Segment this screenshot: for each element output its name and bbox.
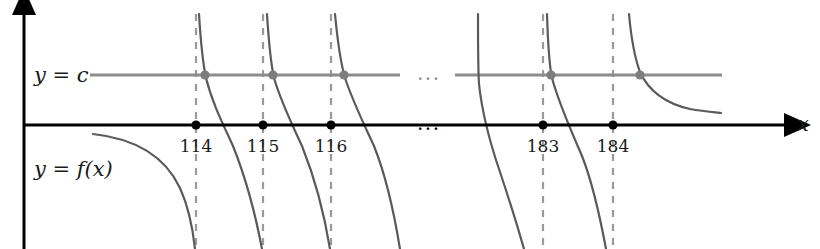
- level-intersection-dot-1: [200, 70, 209, 79]
- tick-label-115: 115: [247, 136, 279, 156]
- curve-branch-114: [199, 14, 262, 249]
- curve-branch-115: [267, 14, 330, 249]
- curve-branch-184-decay: [629, 14, 721, 113]
- axis-dot-114: [191, 120, 200, 129]
- function-graph-figure: 114115116183184 x y = c y = f(x) ... ...: [0, 0, 820, 249]
- curve-branch-183: [547, 14, 606, 249]
- curve-branch-182-partial: [478, 14, 524, 249]
- curve-branch-116: [335, 14, 400, 249]
- ellipsis-level-line: ...: [417, 61, 441, 85]
- level-intersection-dot-2: [268, 70, 277, 79]
- axis-dot-184: [608, 120, 617, 129]
- tick-label-group: 114115116183184: [180, 136, 629, 156]
- level-intersection-dot-5: [635, 70, 644, 79]
- axis-group: [24, 12, 787, 249]
- tick-label-184: 184: [597, 136, 629, 156]
- axis-dot-183: [538, 120, 547, 129]
- tick-label-114: 114: [180, 136, 212, 156]
- x-axis-label: x: [797, 112, 809, 136]
- figure-canvas: 114115116183184 x y = c y = f(x) ... ...: [0, 0, 820, 249]
- function-curve-group: [93, 14, 721, 249]
- axis-dot-116: [326, 120, 335, 129]
- ellipsis-x-axis: ...: [417, 111, 441, 135]
- asymptote-group: [196, 14, 613, 249]
- tick-label-116: 116: [315, 136, 347, 156]
- level-line-label: y = c: [33, 63, 89, 87]
- level-intersection-dot-4: [546, 70, 555, 79]
- function-label: y = f(x): [33, 157, 113, 181]
- level-intersection-dot-3: [339, 70, 348, 79]
- axis-dot-115: [258, 120, 267, 129]
- tick-label-183: 183: [527, 136, 559, 156]
